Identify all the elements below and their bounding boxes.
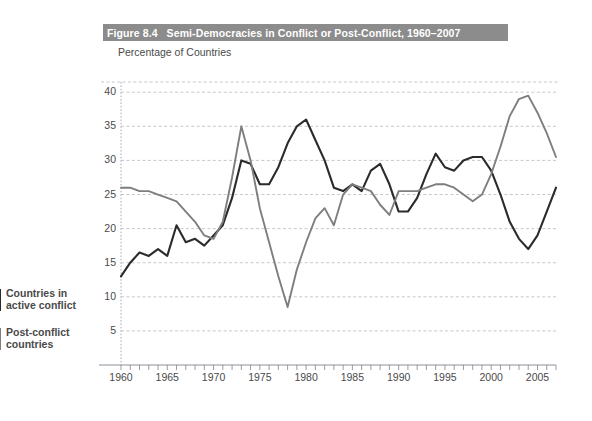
plot-area <box>121 82 556 365</box>
chart-legend: Countries in active conflictPost-conflic… <box>0 288 98 366</box>
figure-title: Semi-Democracies in Conflict or Post-Con… <box>158 27 461 39</box>
y-tick-label: 20 <box>104 222 116 234</box>
line-chart-svg <box>121 82 556 365</box>
y-tick-label: 40 <box>104 85 116 97</box>
y-tick-label: 25 <box>104 188 116 200</box>
x-axis-minor-ticks <box>121 365 556 370</box>
y-tick-label: 30 <box>104 153 116 165</box>
y-axis-tick-labels: 510152025303540 <box>96 82 116 365</box>
series-line-2 <box>121 96 556 307</box>
x-tick-label: 1960 <box>109 371 132 383</box>
x-tick-label: 1965 <box>156 371 179 383</box>
data-series-group <box>121 96 556 307</box>
figure-number: Figure 8.4 <box>103 27 158 39</box>
x-tick-label: 1970 <box>202 371 225 383</box>
legend-swatch-icon <box>0 289 1 311</box>
x-tick-label: 2000 <box>480 371 503 383</box>
x-tick-label: 1990 <box>387 371 410 383</box>
series-line-1 <box>121 120 556 277</box>
x-tick-label: 1995 <box>433 371 456 383</box>
legend-swatch-icon <box>0 328 1 350</box>
legend-entry: Post-conflict countries <box>0 327 98 350</box>
figure-title-bar: Figure 8.4 Semi-Democracies in Conflict … <box>103 24 508 41</box>
x-tick-label: 1975 <box>248 371 271 383</box>
y-tick-label: 35 <box>104 119 116 131</box>
x-tick-label: 2005 <box>526 371 549 383</box>
x-axis-tick-labels: 1960196519701975198019851990199520002005 <box>121 371 556 387</box>
y-tick-label: 10 <box>104 290 116 302</box>
x-tick-label: 1985 <box>341 371 364 383</box>
axis-lines <box>99 82 556 365</box>
legend-label: Post-conflict countries <box>6 327 70 350</box>
figure-container: Figure 8.4 Semi-Democracies in Conflict … <box>0 0 592 421</box>
x-tick-label: 1980 <box>294 371 317 383</box>
gridlines <box>101 82 558 331</box>
y-tick-label: 5 <box>110 324 116 336</box>
chart-subtitle: Percentage of Countries <box>118 46 231 58</box>
legend-entry: Countries in active conflict <box>0 288 98 311</box>
y-tick-label: 15 <box>104 256 116 268</box>
legend-label: Countries in active conflict <box>6 288 76 311</box>
